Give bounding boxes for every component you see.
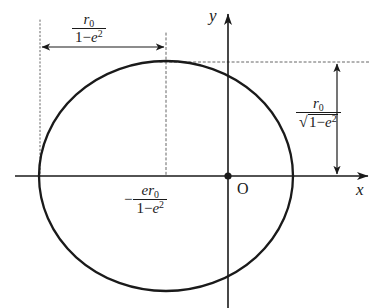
semi-minor-denominator: √1−e2 [296,113,341,130]
semi-minor-numerator: r0 [296,96,341,113]
origin-label: O [237,180,249,198]
radical-glyph: √ [299,114,308,130]
semi-minor-num-sub: 0 [319,102,324,113]
semi-minor-fraction: r0 √1−e2 [296,96,341,130]
semi-major-length-label: r0 1−e2 [72,12,106,45]
semi-minor-den-minus: − [317,114,325,130]
semi-minor-length-label: r0 √1−e2 [296,96,341,130]
semi-major-num-sub: 0 [89,18,94,29]
figure-canvas [0,0,381,308]
center-offset-fraction: er0 1−e2 [133,183,167,216]
semi-major-fraction: r0 1−e2 [72,12,106,45]
ellipse-figure: y x O r0 1−e2 r0 √1−e2 − er0 1−e2 [0,0,381,308]
semi-minor-radicand: 1−e2 [308,114,338,130]
semi-minor-den-e: e [325,114,332,130]
center-offset-den-one: 1 [136,200,144,216]
semi-major-den-minus: − [83,29,91,45]
x-axis-label: x [356,180,364,200]
center-offset-numerator: er0 [133,183,167,200]
center-offset-den-exp: 2 [159,199,164,210]
semi-major-den-e: e [91,29,98,45]
semi-major-den-exp: 2 [98,28,103,39]
center-offset-sign: − [124,192,133,207]
semi-minor-den-one: 1 [309,114,317,130]
y-axis-label: y [209,6,217,26]
semi-major-denominator: 1−e2 [72,29,106,45]
semi-minor-den-exp: 2 [332,113,337,124]
center-offset-expression: − er0 1−e2 [124,183,167,216]
semi-major-den-one: 1 [75,29,83,45]
center-offset-label: − er0 1−e2 [124,183,167,216]
square-root-icon: √1−e2 [299,114,338,130]
center-offset-denominator: 1−e2 [133,200,167,216]
semi-major-numerator: r0 [72,12,106,29]
origin-point [224,172,231,179]
